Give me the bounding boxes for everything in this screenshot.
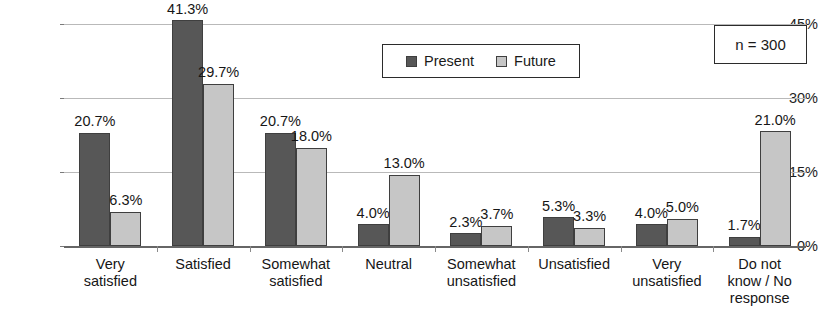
bar-value-label: 4.0%: [635, 206, 668, 221]
bar-value-label: 1.7%: [728, 218, 761, 233]
bar-value-label: 4.0%: [357, 206, 390, 221]
x-axis-category-label: Do notknow / Noresponse: [713, 256, 806, 307]
bar-group: 41.3%29.7%: [157, 0, 250, 246]
satisfaction-bar-chart: 45% 30% 15% 0% 20.7%6.3%41.3%29.7%20.7%1…: [0, 0, 818, 321]
category-label-line: know / No: [713, 273, 806, 290]
bar-value-label: 6.3%: [109, 193, 142, 208]
bar-value-label: 5.0%: [666, 200, 699, 215]
x-axis-tick: [157, 246, 158, 252]
category-label-line: Very: [621, 256, 714, 273]
legend-item-present[interactable]: Present: [406, 54, 474, 69]
bar-future[interactable]: [110, 212, 141, 246]
legend-swatch-future-icon: [496, 56, 507, 67]
sample-size-box: n = 300: [714, 25, 807, 64]
bar-future[interactable]: [203, 84, 234, 246]
category-label-line: Unsatisfied: [528, 256, 621, 273]
category-label-line: Satisfied: [157, 256, 250, 273]
x-axis-category-label: Somewhatunsatisfied: [435, 256, 528, 290]
bar-value-label: 13.0%: [384, 156, 425, 171]
bar-value-label: 3.7%: [480, 207, 513, 222]
x-axis-tick: [713, 246, 714, 252]
bar-group: 20.7%18.0%: [250, 0, 343, 246]
bar-future[interactable]: [667, 219, 698, 246]
bar-present[interactable]: [729, 237, 760, 246]
category-label-line: Very: [64, 256, 157, 273]
bar-present[interactable]: [79, 133, 110, 246]
category-label-line: Somewhat: [250, 256, 343, 273]
bar-value-label: 41.3%: [167, 2, 208, 17]
bar-present[interactable]: [543, 217, 574, 246]
bar-value-label: 3.3%: [573, 209, 606, 224]
bar-present[interactable]: [172, 20, 203, 246]
legend-label-present: Present: [424, 54, 474, 69]
x-axis-tick: [621, 246, 622, 252]
x-axis-tick: [528, 246, 529, 252]
bar-value-label: 5.3%: [542, 199, 575, 214]
bar-present[interactable]: [636, 224, 667, 246]
bar-value-label: 20.7%: [74, 114, 115, 129]
chart-legend: Present Future: [382, 44, 580, 78]
bar-future[interactable]: [574, 228, 605, 246]
x-axis-category-label: Verysatisfied: [64, 256, 157, 290]
bar-value-label: 29.7%: [198, 65, 239, 80]
bar-present[interactable]: [265, 133, 296, 246]
category-label-line: satisfied: [64, 273, 157, 290]
category-label-line: response: [713, 290, 806, 307]
bar-future[interactable]: [389, 175, 420, 246]
plot-area: 20.7%6.3%41.3%29.7%20.7%18.0%4.0%13.0%2.…: [64, 0, 806, 246]
category-label-line: Neutral: [342, 256, 435, 273]
x-axis-tick: [435, 246, 436, 252]
bar-group: 4.0%13.0%: [342, 0, 435, 246]
category-label-line: Do not: [713, 256, 806, 273]
category-label-line: unsatisfied: [435, 273, 528, 290]
x-axis-category-label: Neutral: [342, 256, 435, 273]
x-axis-tick: [250, 246, 251, 252]
legend-swatch-present-icon: [406, 56, 417, 67]
x-axis-category-label: Unsatisfied: [528, 256, 621, 273]
bar-group: 2.3%3.7%: [435, 0, 528, 246]
category-label-line: Somewhat: [435, 256, 528, 273]
x-axis-category-label: Satisfied: [157, 256, 250, 273]
bar-value-label: 18.0%: [291, 129, 332, 144]
bar-value-label: 21.0%: [755, 113, 796, 128]
bar-future[interactable]: [481, 226, 512, 246]
bar-future[interactable]: [296, 148, 327, 246]
sample-size-text: n = 300: [735, 37, 785, 52]
bar-present[interactable]: [450, 233, 481, 246]
bar-value-label: 2.3%: [449, 215, 482, 230]
x-axis-category-label: Somewhatsatisfied: [250, 256, 343, 290]
legend-label-future: Future: [514, 54, 556, 69]
bar-group: 5.3%3.3%: [528, 0, 621, 246]
bar-value-label: 20.7%: [260, 114, 301, 129]
legend-item-future[interactable]: Future: [496, 54, 556, 69]
category-label-line: unsatisfied: [621, 273, 714, 290]
category-label-line: satisfied: [250, 273, 343, 290]
bar-group: 20.7%6.3%: [64, 0, 157, 246]
bar-present[interactable]: [358, 224, 389, 246]
x-axis-category-label: Veryunsatisfied: [621, 256, 714, 290]
bar-group: 4.0%5.0%: [621, 0, 714, 246]
x-axis-tick: [342, 246, 343, 252]
bar-future[interactable]: [760, 131, 791, 246]
